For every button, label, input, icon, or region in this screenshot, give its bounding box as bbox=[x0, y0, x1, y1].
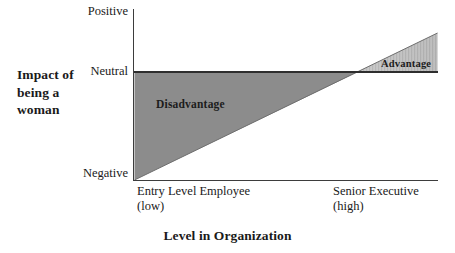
x-axis-line bbox=[133, 180, 438, 181]
y-axis-line bbox=[133, 9, 134, 181]
y-tick-label-neutral: Neutral bbox=[36, 64, 128, 78]
neutral-reference-line bbox=[134, 71, 438, 73]
y-tick-label-positive: Positive bbox=[36, 4, 128, 18]
x-axis-title: Level in Organization bbox=[0, 228, 455, 244]
chart-regions bbox=[0, 0, 455, 253]
x-tick-label-senior-executive: Senior Executive (high) bbox=[333, 184, 419, 214]
y-axis-title-line-2: being a bbox=[17, 84, 122, 102]
x-tick-label-entry-level-sub: (low) bbox=[137, 199, 250, 214]
x-tick-label-senior-executive-main: Senior Executive bbox=[333, 184, 419, 199]
y-axis-title-line-3: woman bbox=[17, 101, 122, 119]
region-label-disadvantage: Disadvantage bbox=[156, 98, 225, 110]
x-tick-label-entry-level: Entry Level Employee (low) bbox=[137, 184, 250, 214]
x-tick-label-entry-level-main: Entry Level Employee bbox=[137, 184, 250, 199]
impact-of-being-a-woman-chart: Impact of being a woman Positive Neutral… bbox=[0, 0, 455, 253]
region-disadvantage-fill bbox=[135, 72, 359, 180]
x-tick-label-senior-executive-sub: (high) bbox=[333, 199, 419, 214]
y-tick-label-negative: Negative bbox=[36, 166, 128, 180]
region-label-advantage: Advantage bbox=[381, 58, 431, 69]
